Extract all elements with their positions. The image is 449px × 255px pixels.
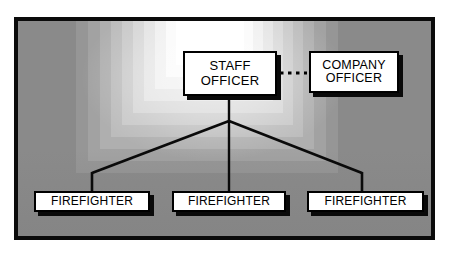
diagram-frame: STAFF OFFICER COMPANY OFFICER FIREFIGHTE…: [14, 17, 435, 240]
node-firefighter-2-label: FIREFIGHTER: [188, 195, 270, 208]
node-firefighter-1[interactable]: FIREFIGHTER: [34, 191, 150, 212]
node-firefighter-2[interactable]: FIREFIGHTER: [172, 191, 286, 212]
diagram-canvas: STAFF OFFICER COMPANY OFFICER FIREFIGHTE…: [0, 0, 449, 255]
node-company-officer[interactable]: COMPANY OFFICER: [309, 51, 399, 93]
node-company-officer-label: COMPANY OFFICER: [322, 59, 386, 86]
node-firefighter-1-label: FIREFIGHTER: [51, 195, 133, 208]
node-staff-officer[interactable]: STAFF OFFICER: [183, 51, 277, 96]
node-firefighter-3[interactable]: FIREFIGHTER: [307, 191, 424, 212]
node-staff-officer-label: STAFF OFFICER: [201, 59, 259, 87]
node-firefighter-3-label: FIREFIGHTER: [324, 195, 406, 208]
